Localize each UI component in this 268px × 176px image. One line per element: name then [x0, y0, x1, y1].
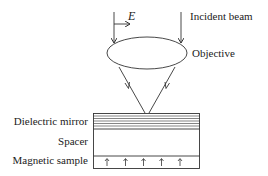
objective-label: Objective: [192, 48, 235, 59]
spacer-label: Spacer: [58, 136, 88, 147]
up-arrow-icon: [142, 159, 146, 167]
magnetization-arrows: [105, 159, 182, 167]
diagram-canvas: [0, 0, 268, 176]
up-arrow-icon: [160, 159, 164, 167]
up-arrow-icon: [124, 159, 128, 167]
e-field-label: E: [128, 10, 135, 22]
up-arrow-icon: [178, 159, 182, 167]
up-arrow-icon: [105, 159, 109, 167]
incident-beam-label: Incident beam: [190, 11, 253, 22]
incident-beam-rays: [114, 12, 181, 43]
dielectric-mirror-layers: [94, 116, 200, 129]
magnetic-sample-label: Magnetic sample: [13, 155, 88, 166]
objective-lens-icon: [107, 37, 187, 69]
sample-stack: [94, 114, 200, 169]
converging-rays: [119, 67, 175, 113]
dielectric-mirror-label: Dielectric mirror: [14, 116, 88, 127]
